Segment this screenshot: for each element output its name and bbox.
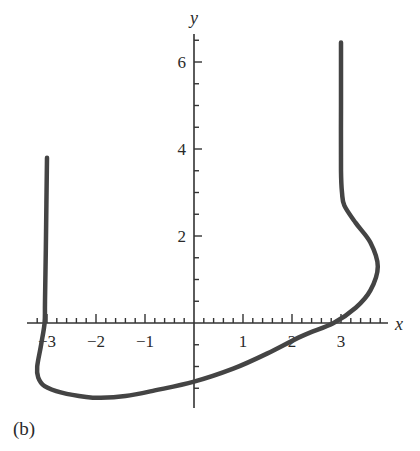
tick-labels: −3−2−1123246 bbox=[38, 53, 345, 351]
y-tick-label: 6 bbox=[178, 53, 187, 72]
x-tick-label: 3 bbox=[337, 332, 346, 351]
panel-label: (b) bbox=[13, 418, 35, 440]
x-axis-label: x bbox=[394, 314, 403, 334]
chart-plot-area: −3−2−1123246 x y bbox=[0, 0, 420, 451]
y-tick-label: 4 bbox=[178, 140, 187, 159]
axes bbox=[27, 34, 388, 408]
y-tick-label: 2 bbox=[178, 227, 187, 246]
x-tick-label: −1 bbox=[136, 332, 154, 351]
x-tick-label: 1 bbox=[239, 332, 248, 351]
x-tick-label: −2 bbox=[87, 332, 105, 351]
y-axis-label: y bbox=[188, 8, 198, 28]
